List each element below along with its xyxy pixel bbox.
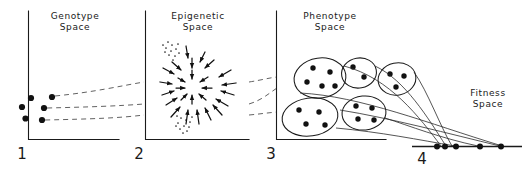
panel-number-4: 4 [414, 150, 430, 169]
panel-title-fitness: Fitness Space [452, 88, 524, 111]
connector-genotype-to-epigenetic [45, 82, 144, 120]
panel-number-2: 2 [131, 145, 147, 164]
connector-epigenetic-to-phenotype [249, 77, 277, 115]
epigenetic-vector-field [160, 46, 236, 124]
panel-number-3: 3 [263, 145, 279, 164]
panel-fitness-space [412, 144, 522, 150]
panel-number-1: 1 [14, 145, 30, 164]
figure-root: .ax{stroke:#1a1a1a;stroke-width:1.1;fill… [0, 0, 527, 173]
epigenetic-stipple-lower [175, 115, 193, 134]
epigenetic-stipple-upper [162, 41, 180, 61]
phenotype-cluster-1 [291, 55, 348, 102]
phenotype-cluster-4 [280, 94, 341, 139]
panel-title-epigenetic: Epigenetic Space [150, 11, 246, 34]
phenotype-cluster-3 [375, 59, 419, 98]
genotype-point-cloud [19, 94, 55, 123]
panel-title-genotype: Genotype Space [32, 11, 118, 34]
panel-title-phenotype: Phenotype Space [282, 11, 378, 34]
